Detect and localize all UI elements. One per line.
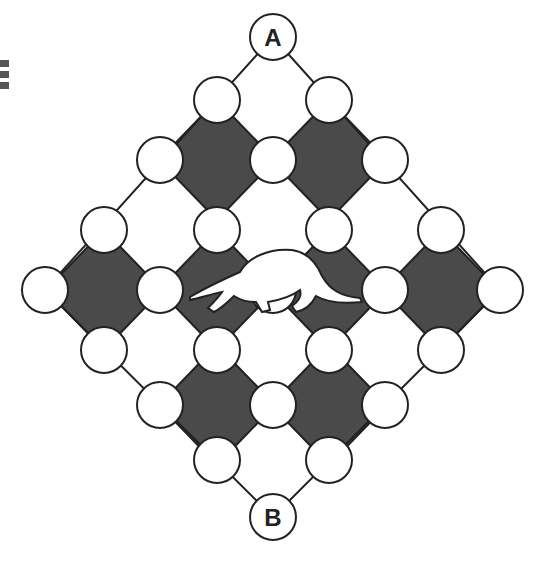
board-node[interactable]: [477, 267, 523, 313]
board-node[interactable]: [194, 77, 240, 123]
board-node[interactable]: [362, 267, 408, 313]
board-node[interactable]: [137, 382, 183, 428]
board-node[interactable]: [137, 267, 183, 313]
board-node[interactable]: [306, 437, 352, 483]
board-node[interactable]: [194, 437, 240, 483]
board-node[interactable]: [362, 382, 408, 428]
board-node[interactable]: [194, 327, 240, 373]
board-node[interactable]: [418, 327, 464, 373]
board-node[interactable]: [194, 207, 240, 253]
board-node[interactable]: [22, 267, 68, 313]
end-label: B: [264, 504, 281, 531]
game-board: A B: [0, 0, 556, 574]
board-node[interactable]: [137, 137, 183, 183]
board-node[interactable]: [306, 327, 352, 373]
board-node[interactable]: [250, 382, 296, 428]
board-node[interactable]: [250, 137, 296, 183]
board-node[interactable]: [81, 207, 127, 253]
board-node[interactable]: [306, 77, 352, 123]
board-node[interactable]: [81, 327, 127, 373]
board-node[interactable]: [362, 137, 408, 183]
board-node[interactable]: [306, 207, 352, 253]
board-node[interactable]: [418, 207, 464, 253]
start-label: A: [264, 24, 281, 51]
